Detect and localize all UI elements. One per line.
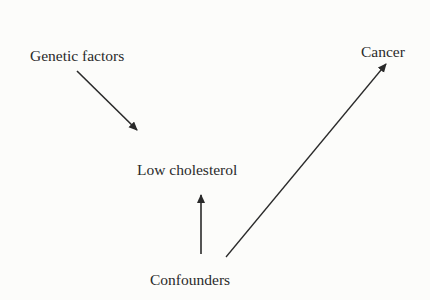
node-confounders: Confounders bbox=[150, 272, 230, 288]
node-low-cholesterol: Low cholesterol bbox=[137, 162, 237, 178]
node-cancer: Cancer bbox=[361, 44, 405, 60]
node-genetic-factors: Genetic factors bbox=[30, 48, 124, 64]
causal-diagram: Genetic factors Cancer Low cholesterol C… bbox=[0, 0, 430, 300]
arrow-confounders-to-cancer bbox=[226, 64, 386, 257]
arrow-genetic-to-low-cholesterol bbox=[77, 71, 137, 130]
